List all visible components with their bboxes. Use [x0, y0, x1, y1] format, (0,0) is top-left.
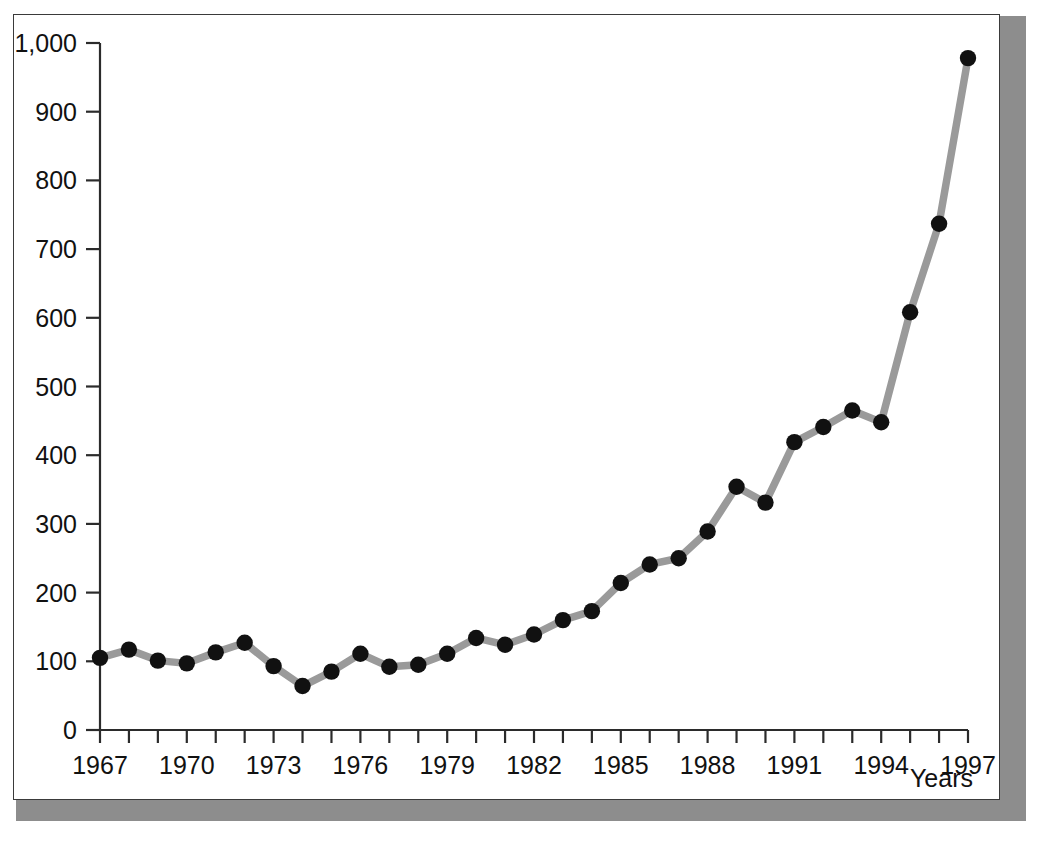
- figure-root: 01002003004005006007008009001,000 196719…: [0, 0, 1043, 846]
- y-axis-tick-label: 400: [35, 441, 77, 469]
- data-point: [265, 658, 281, 674]
- data-point: [757, 494, 773, 510]
- x-axis-tick-label: 1982: [506, 751, 562, 779]
- data-point: [584, 603, 600, 619]
- x-axis-tick-label: 1979: [419, 751, 475, 779]
- series-line: [100, 58, 968, 686]
- data-point: [208, 644, 224, 660]
- data-point: [410, 657, 426, 673]
- y-axis-tick-label: 0: [63, 716, 77, 744]
- data-point: [526, 626, 542, 642]
- x-axis-tick-label: 1976: [333, 751, 389, 779]
- x-axis-tick-label: 1985: [593, 751, 649, 779]
- y-axis-tick-label: 1,000: [14, 29, 77, 57]
- x-axis-tick-label: 1994: [853, 751, 909, 779]
- y-axis-tick-label: 700: [35, 235, 77, 263]
- data-point: [960, 50, 976, 66]
- data-markers: [92, 50, 976, 694]
- y-axis-tick-label: 900: [35, 98, 77, 126]
- x-axis-tick-label: 1988: [680, 751, 736, 779]
- data-point: [121, 641, 137, 657]
- data-series: [100, 58, 968, 686]
- data-point: [873, 414, 889, 430]
- data-point: [613, 575, 629, 591]
- data-point: [902, 304, 918, 320]
- data-point: [642, 556, 658, 572]
- data-point: [236, 635, 252, 651]
- figure-caption-strip: [0, 826, 1043, 846]
- y-axis-tick-label: 800: [35, 166, 77, 194]
- data-point: [323, 663, 339, 679]
- data-point: [439, 646, 455, 662]
- y-axis-tick-label: 500: [35, 373, 77, 401]
- data-point: [786, 434, 802, 450]
- x-axis-tick-label: 1967: [72, 751, 128, 779]
- y-axis-tick-label: 600: [35, 304, 77, 332]
- data-point: [670, 550, 686, 566]
- data-point: [352, 646, 368, 662]
- data-point: [294, 678, 310, 694]
- data-point: [555, 612, 571, 628]
- y-axis-tick-label: 100: [35, 647, 77, 675]
- data-point: [844, 402, 860, 418]
- x-axis-tick-label: 1991: [767, 751, 823, 779]
- data-point: [497, 637, 513, 653]
- x-axis-tick-label: 1970: [159, 751, 215, 779]
- data-point: [468, 630, 484, 646]
- x-axis-title: Years: [910, 764, 973, 792]
- data-point: [815, 419, 831, 435]
- plot-area: 01002003004005006007008009001,000 196719…: [13, 14, 1000, 800]
- data-point: [931, 215, 947, 231]
- y-axis-tick-label: 200: [35, 579, 77, 607]
- data-point: [92, 650, 108, 666]
- y-axis-tick-label: 300: [35, 510, 77, 538]
- line-chart: 01002003004005006007008009001,000 196719…: [13, 14, 1000, 800]
- data-point: [699, 523, 715, 539]
- x-axis-tick-label: 1973: [246, 751, 302, 779]
- data-point: [381, 659, 397, 675]
- data-point: [179, 655, 195, 671]
- y-axis: 01002003004005006007008009001,000: [14, 29, 100, 744]
- card-shadow-bottom: [16, 799, 1026, 821]
- data-point: [150, 652, 166, 668]
- data-point: [728, 479, 744, 495]
- x-axis: 1967197019731976197919821985198819911994…: [72, 730, 996, 779]
